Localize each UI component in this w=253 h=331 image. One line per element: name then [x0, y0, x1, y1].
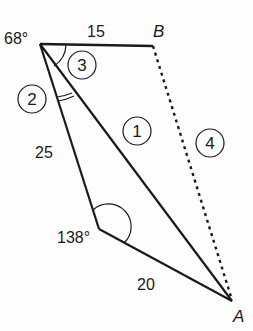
- angle-label-68: 68°: [4, 30, 28, 47]
- marker-2: 2: [18, 85, 46, 113]
- angle-label-138: 138°: [57, 229, 90, 246]
- vertex-label-B: B: [153, 22, 164, 41]
- marker-4: 4: [196, 129, 224, 157]
- side-bottom: [99, 229, 232, 301]
- svg-text:1: 1: [132, 122, 141, 141]
- diagonal-1: [40, 44, 232, 301]
- side-label-25: 25: [35, 144, 53, 161]
- svg-text:4: 4: [205, 134, 214, 153]
- angle-arc-2a: [57, 93, 72, 97]
- diagram-svg: 3 2 1 4 68° 15 B 25 138° 20 A: [0, 0, 253, 331]
- svg-text:3: 3: [77, 56, 86, 75]
- vertex-label-A: A: [232, 307, 244, 326]
- side-dashed-BA: [153, 46, 232, 300]
- angle-arc-3: [54, 45, 66, 66]
- side-label-20: 20: [137, 276, 155, 293]
- quadrilateral-diagram: 3 2 1 4 68° 15 B 25 138° 20 A: [0, 0, 253, 331]
- side-label-15: 15: [87, 23, 105, 40]
- marker-1: 1: [123, 117, 151, 145]
- marker-3: 3: [68, 51, 96, 79]
- side-top: [40, 44, 153, 46]
- svg-text:2: 2: [27, 90, 36, 109]
